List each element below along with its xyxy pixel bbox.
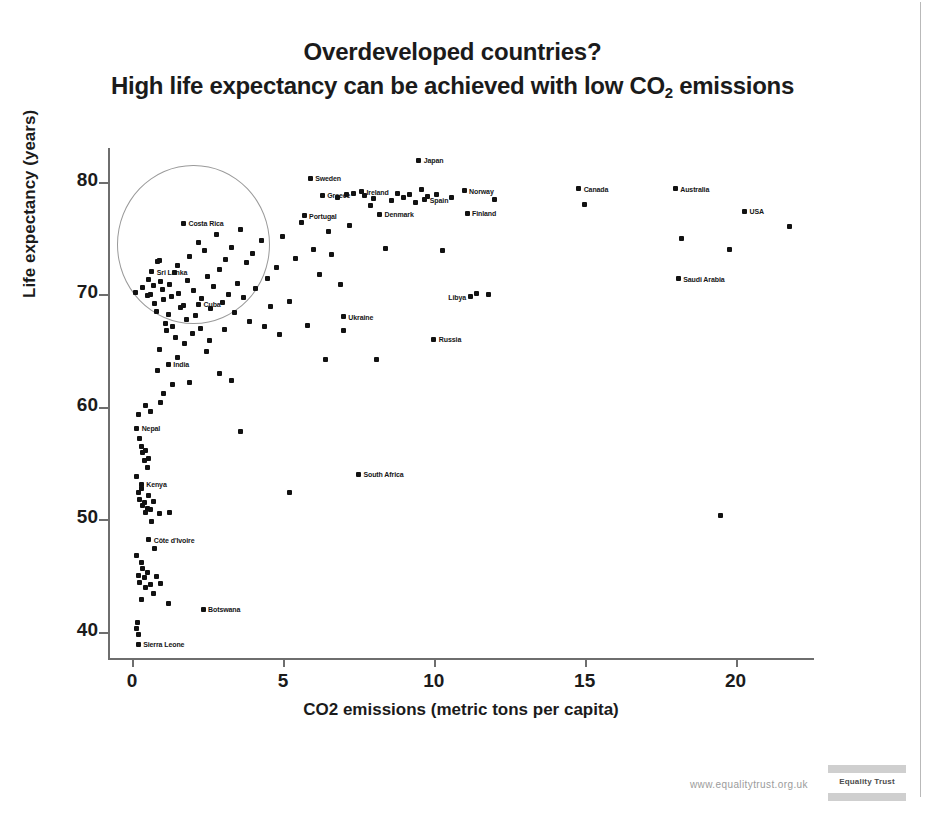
- data-point: [226, 292, 231, 297]
- data-point: [139, 560, 144, 565]
- y-tick: [99, 407, 108, 409]
- y-tick-label: 50: [38, 506, 98, 528]
- data-point: [133, 290, 138, 295]
- data-point-label: Canada: [584, 185, 609, 192]
- x-tick-label: 0: [102, 670, 162, 692]
- data-point-labeled: [201, 607, 206, 612]
- data-point: [142, 575, 147, 580]
- title-line-2-pre: High life expectancy can be achieved wit…: [111, 72, 665, 99]
- data-point: [449, 195, 454, 200]
- data-point: [419, 187, 424, 192]
- y-tick: [99, 519, 108, 521]
- data-point: [139, 486, 144, 491]
- data-point: [170, 324, 175, 329]
- slide-title: Overdeveloped countries? High life expec…: [0, 36, 905, 103]
- data-point: [238, 429, 243, 434]
- data-point-label: India: [173, 361, 189, 368]
- data-point: [187, 380, 192, 385]
- data-point-labeled: [377, 212, 382, 217]
- data-point: [317, 272, 322, 277]
- data-point: [287, 299, 292, 304]
- data-point: [247, 319, 252, 324]
- data-point-label: South Africa: [363, 471, 403, 478]
- data-point-labeled: [422, 197, 427, 202]
- data-point-labeled: [673, 186, 678, 191]
- title-line-1: Overdeveloped countries?: [0, 36, 905, 67]
- data-point: [323, 357, 328, 362]
- data-point: [160, 287, 165, 292]
- data-point-label: Botswana: [208, 606, 240, 613]
- data-point: [268, 304, 273, 309]
- data-point-label: Greece: [327, 192, 350, 199]
- data-point: [211, 284, 216, 289]
- data-point: [214, 232, 219, 237]
- data-point: [238, 227, 243, 232]
- data-point: [148, 507, 153, 512]
- data-point: [175, 355, 180, 360]
- x-tick-label: 20: [706, 670, 766, 692]
- data-point: [401, 195, 406, 200]
- data-point: [718, 513, 723, 518]
- data-point-label: USA: [750, 208, 764, 215]
- data-point: [135, 620, 140, 625]
- data-point: [158, 279, 163, 284]
- data-point: [338, 282, 343, 287]
- data-point: [232, 310, 237, 315]
- data-point: [151, 283, 156, 288]
- data-point-label: Russia: [439, 336, 461, 343]
- cluster-highlight-ellipse: [117, 165, 270, 325]
- x-tick-label: 5: [253, 670, 313, 692]
- data-point-label: Nepal: [142, 425, 161, 432]
- data-point: [185, 278, 190, 283]
- data-point: [161, 391, 166, 396]
- data-point-labeled: [320, 193, 325, 198]
- data-point: [146, 456, 151, 461]
- data-point: [440, 248, 445, 253]
- data-point-labeled: [166, 362, 171, 367]
- data-point-labeled: [308, 176, 313, 181]
- data-point: [154, 574, 159, 579]
- data-point-labeled: [359, 189, 364, 194]
- data-point: [241, 295, 246, 300]
- data-point: [280, 234, 285, 239]
- x-tick: [283, 658, 285, 667]
- data-point: [166, 312, 171, 317]
- data-point-label: Norway: [469, 187, 494, 194]
- data-point: [347, 223, 352, 228]
- data-point: [137, 580, 142, 585]
- data-point-labeled: [468, 294, 473, 299]
- data-point-label: Ireland: [366, 188, 388, 195]
- data-point: [157, 258, 162, 263]
- slide-canvas: Overdeveloped countries? High life expec…: [0, 0, 933, 831]
- x-tick: [736, 658, 738, 667]
- data-point: [148, 582, 153, 587]
- y-tick: [99, 632, 108, 634]
- data-point: [169, 294, 174, 299]
- data-point: [287, 490, 292, 495]
- data-point: [166, 601, 171, 606]
- data-point: [217, 371, 222, 376]
- equality-trust-logo: Equality Trust: [828, 765, 906, 801]
- data-point-label: Japan: [424, 157, 444, 164]
- data-point: [164, 328, 169, 333]
- data-point: [161, 297, 166, 302]
- data-point: [158, 400, 163, 405]
- data-point: [181, 303, 186, 308]
- footer-url[interactable]: www.equalitytrust.org.uk: [690, 779, 808, 790]
- data-point: [727, 247, 732, 252]
- data-point-labeled: [134, 426, 139, 431]
- data-point: [143, 403, 148, 408]
- data-point: [229, 245, 234, 250]
- data-point: [395, 191, 400, 196]
- x-tick-label: 10: [404, 670, 464, 692]
- data-point: [134, 474, 139, 479]
- data-point: [173, 335, 178, 340]
- data-point: [383, 246, 388, 251]
- data-point-label: Saudi Arabia: [683, 275, 724, 282]
- data-point: [311, 247, 316, 252]
- y-tick-label: 70: [38, 281, 98, 303]
- data-point-labeled: [416, 158, 421, 163]
- data-point: [305, 323, 310, 328]
- data-point-labeled: [149, 269, 154, 274]
- data-point: [299, 220, 304, 225]
